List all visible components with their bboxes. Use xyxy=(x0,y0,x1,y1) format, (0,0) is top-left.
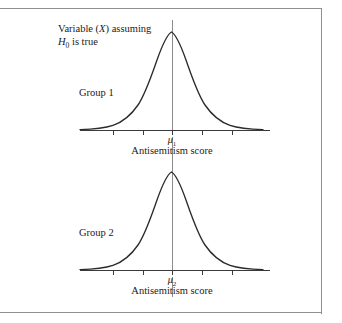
figure-border-bottom xyxy=(0,312,322,313)
x-tick xyxy=(202,130,203,135)
x-tick xyxy=(143,130,144,135)
panel-group-1: Variable (X) assuming H0 is true Group 1… xyxy=(0,14,322,154)
x-tick xyxy=(202,270,203,275)
group-1-label: Group 1 xyxy=(79,87,114,98)
null-hypothesis-subscript: 0 xyxy=(66,41,70,50)
figure-container: Variable (X) assuming H0 is true Group 1… xyxy=(0,0,342,323)
group-2-label: Group 2 xyxy=(79,227,114,238)
x-axis-title-group-1: Antisemitism score xyxy=(92,145,252,156)
x-tick xyxy=(143,270,144,275)
panel-group-2: Group 2 μ2 Antisemitism score xyxy=(0,158,322,308)
figure-border-top xyxy=(0,8,322,9)
hypothesis-annotation: Variable (X) assuming H0 is true xyxy=(58,22,151,49)
x-axis-group-1 xyxy=(80,130,270,131)
x-tick xyxy=(113,270,114,275)
mean-symbol: μ xyxy=(168,274,173,285)
x-tick xyxy=(232,130,233,135)
mean-label-group-2: μ2 xyxy=(152,274,192,285)
x-tick xyxy=(232,270,233,275)
annotation-prefix: Variable ( xyxy=(58,23,99,34)
null-hypothesis-symbol: H xyxy=(58,36,66,47)
x-axis-title-group-2: Antisemitism score xyxy=(92,285,252,296)
annotation-suffix: ) assuming xyxy=(106,23,152,34)
normal-curve-group-1 xyxy=(0,14,322,154)
mean-label-group-1: μ1 xyxy=(152,134,192,145)
mean-symbol: μ xyxy=(168,134,173,145)
annotation-line2-suffix: is true xyxy=(69,36,98,47)
x-tick xyxy=(113,130,114,135)
x-axis-group-2 xyxy=(80,270,270,271)
